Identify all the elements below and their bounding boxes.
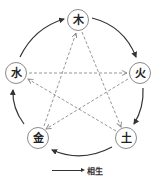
node-wood: 木 <box>67 9 89 31</box>
generating-arc-fire-earth <box>134 88 143 124</box>
node-earth-label: 土 <box>121 133 132 144</box>
generating-arc-metal-water <box>13 90 24 124</box>
controlling-line-fire-metal <box>46 79 128 129</box>
node-earth: 土 <box>115 127 137 149</box>
controlling-line-wood-earth <box>82 32 121 127</box>
five-elements-diagram: 木 火 土 金 水 相生 <box>0 0 155 180</box>
node-metal: 金 <box>27 127 49 149</box>
node-water-label: 水 <box>11 68 22 79</box>
legend-solid-arrow-icon <box>52 170 82 171</box>
legend: 相生 <box>52 164 103 176</box>
node-fire: 火 <box>129 62 151 84</box>
node-wood-label: 木 <box>73 15 84 26</box>
legend-label-generating: 相生 <box>87 165 103 176</box>
node-water: 水 <box>5 62 27 84</box>
generating-arc-wood-fire <box>92 18 136 57</box>
controlling-line-metal-wood <box>44 33 76 126</box>
generating-arc-water-wood <box>20 19 64 57</box>
controlling-line-earth-water <box>28 79 116 131</box>
node-metal-label: 金 <box>33 133 44 144</box>
node-fire-label: 火 <box>135 68 146 79</box>
generating-arc-earth-metal <box>52 147 112 156</box>
